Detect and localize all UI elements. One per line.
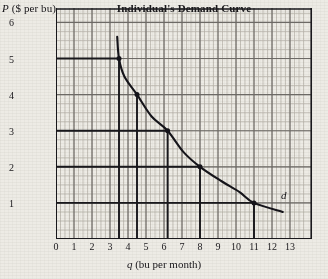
chart-title: Individual's Demand Curve xyxy=(56,2,312,14)
minor-gridlines xyxy=(56,8,312,239)
y-tick-1: 1 xyxy=(0,197,14,208)
x-tick-13: 13 xyxy=(277,241,303,252)
y-tick-3: 3 xyxy=(0,125,14,136)
x-axis-label: q (bu per month) xyxy=(0,258,328,270)
plot-area xyxy=(56,8,312,239)
y-axis-units: ($ per bu) xyxy=(9,2,56,14)
y-tick-2: 2 xyxy=(0,161,14,172)
y-axis-label: P ($ per bu) xyxy=(2,2,56,14)
axis-lines xyxy=(56,8,312,239)
curve-label-d: d xyxy=(281,189,287,201)
y-tick-5: 5 xyxy=(0,53,14,64)
x-axis-units: (bu per month) xyxy=(132,258,201,270)
y-axis-symbol: P xyxy=(2,2,9,14)
y-tick-6: 6 xyxy=(0,17,14,28)
major-gridlines xyxy=(56,8,312,239)
chart-figure: Individual's Demand Curve P ($ per bu) q… xyxy=(0,0,328,279)
y-tick-4: 4 xyxy=(0,89,14,100)
